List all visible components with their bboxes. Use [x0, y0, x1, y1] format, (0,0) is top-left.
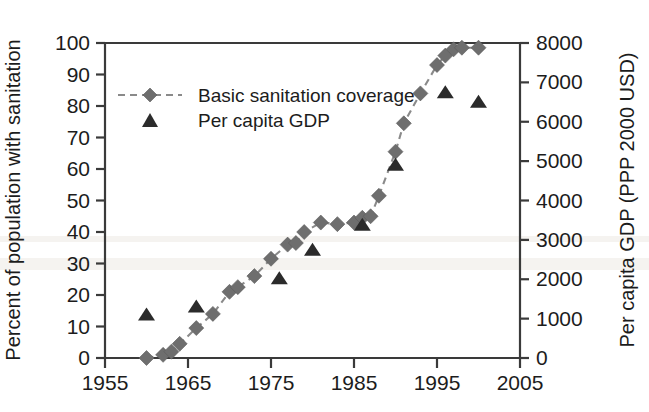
x-tick-label: 1955 [82, 371, 129, 394]
y-right-tick-label: 8000 [536, 31, 583, 54]
x-tick-group: 195519651975198519952005 [82, 358, 544, 394]
legend-entry-sanitation: Basic sanitation coverage [118, 85, 415, 106]
x-tick-label: 1985 [331, 371, 378, 394]
data-point-gdp [304, 243, 321, 256]
y-right-tick-group: 010002000300040005000600070008000 [520, 31, 583, 369]
x-tick-label: 1995 [414, 371, 461, 394]
y-left-tick-label: 70 [67, 126, 90, 149]
y-left-tick-group: 0102030405060708090100 [55, 31, 105, 369]
triangle-icon [142, 113, 158, 127]
data-point-sanitation [139, 351, 154, 366]
y-left-tick-label: 100 [55, 31, 90, 54]
legend: Basic sanitation coverage Per capita GDP [118, 85, 415, 131]
data-point-gdp [138, 307, 155, 320]
data-point-gdp [271, 271, 288, 284]
y-left-tick-label: 90 [67, 63, 90, 86]
y-left-tick-label: 50 [67, 189, 90, 212]
legend-entry-gdp: Per capita GDP [142, 110, 330, 131]
x-tick-label: 1975 [248, 371, 295, 394]
y-left-tick-label: 80 [67, 94, 90, 117]
data-point-sanitation [313, 215, 328, 230]
data-point-sanitation [371, 188, 386, 203]
data-point-gdp [470, 95, 487, 108]
y-right-tick-label: 3000 [536, 228, 583, 251]
y-right-axis-title: Per capita GDP (PPP 2000 USD) [616, 53, 638, 348]
x-tick-label: 1965 [165, 371, 212, 394]
y-left-tick-label: 0 [78, 346, 90, 369]
data-point-sanitation [396, 116, 411, 131]
y-left-tick-label: 10 [67, 315, 90, 338]
legend-label-gdp: Per capita GDP [198, 110, 330, 131]
data-point-gdp [387, 158, 404, 171]
x-tick-label: 2005 [497, 371, 544, 394]
y-left-tick-label: 60 [67, 157, 90, 180]
legend-label-sanitation: Basic sanitation coverage [198, 85, 415, 106]
data-point-sanitation [330, 217, 345, 232]
y-right-tick-label: 5000 [536, 149, 583, 172]
y-left-tick-label: 40 [67, 220, 90, 243]
data-point-gdp [188, 300, 205, 313]
diamond-icon [143, 88, 157, 102]
y-left-tick-label: 30 [67, 252, 90, 275]
data-point-sanitation [413, 86, 428, 101]
chart-canvas: 0102030405060708090100 01000200030004000… [0, 0, 649, 412]
chart-figure: 0102030405060708090100 01000200030004000… [0, 0, 649, 412]
y-right-tick-label: 7000 [536, 70, 583, 93]
y-right-tick-label: 0 [536, 346, 548, 369]
data-point-sanitation [388, 144, 403, 159]
y-left-tick-label: 20 [67, 283, 90, 306]
y-right-tick-label: 1000 [536, 307, 583, 330]
y-right-tick-label: 2000 [536, 267, 583, 290]
y-right-tick-label: 4000 [536, 189, 583, 212]
y-right-tick-label: 6000 [536, 110, 583, 133]
data-point-gdp [437, 85, 454, 98]
y-left-axis-title: Percent of population with sanitation [2, 39, 24, 360]
